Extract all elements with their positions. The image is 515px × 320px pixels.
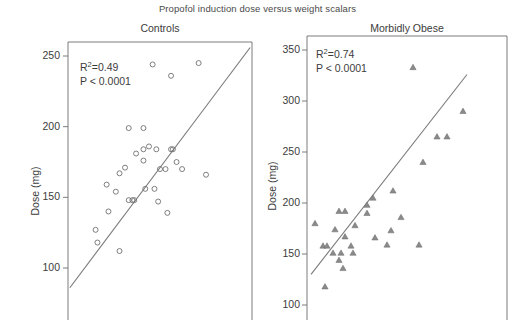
- data-point: [180, 167, 185, 172]
- data-point: [146, 144, 151, 149]
- y-tick-label-morbidly-obese-100: 100: [260, 298, 300, 310]
- r-squared-left: R2=0.49: [80, 60, 131, 74]
- annotation-left-panel: R2=0.49 P < 0.0001: [80, 60, 131, 88]
- panel-title-morbidly-obese: Morbidly Obese: [307, 22, 507, 34]
- data-point: [117, 249, 122, 254]
- y-axis-label-right: Dose (mg): [266, 146, 278, 226]
- data-point: [141, 158, 146, 163]
- data-point: [117, 171, 122, 176]
- data-point: [384, 242, 390, 247]
- regression-line-morbidly-obese: [311, 74, 467, 274]
- y-tick-label-morbidly-obese-300: 300: [260, 94, 300, 106]
- data-point: [154, 147, 159, 152]
- data-point: [420, 159, 426, 164]
- data-point: [163, 167, 168, 172]
- y-tick-label-controls-250: 250: [20, 49, 60, 61]
- data-point: [152, 186, 157, 191]
- data-point: [113, 189, 118, 194]
- panel-morbidly-obese: [302, 36, 507, 320]
- y-tick-label-controls-150: 150: [20, 190, 60, 202]
- y-tick-label-controls-200: 200: [20, 120, 60, 132]
- y-tick-label-morbidly-obese-200: 200: [260, 196, 300, 208]
- data-point: [156, 199, 161, 204]
- data-point: [338, 250, 344, 255]
- data-point: [410, 64, 416, 69]
- data-point: [352, 222, 358, 227]
- data-point: [336, 208, 342, 213]
- plot-canvas: [0, 0, 515, 320]
- data-point: [342, 208, 348, 213]
- figure-container: Propofol induction dose versus weight sc…: [0, 0, 515, 320]
- data-point: [364, 210, 370, 215]
- data-point: [330, 250, 336, 255]
- data-point: [104, 182, 109, 187]
- data-point: [123, 165, 128, 170]
- p-value-right: P < 0.0001: [316, 61, 367, 75]
- data-point: [93, 227, 98, 232]
- data-point: [204, 172, 209, 177]
- p-value-left: P < 0.0001: [80, 74, 131, 88]
- annotation-right-panel: R2=0.74 P < 0.0001: [316, 47, 367, 75]
- data-point: [372, 235, 378, 240]
- y-tick-label-morbidly-obese-350: 350: [260, 43, 300, 55]
- data-point: [165, 210, 170, 215]
- data-point: [174, 160, 179, 165]
- data-point: [350, 250, 356, 255]
- data-point: [332, 226, 338, 231]
- data-point: [134, 151, 139, 156]
- data-point: [150, 62, 155, 67]
- data-point: [95, 240, 100, 245]
- data-point: [416, 242, 422, 247]
- data-point: [434, 134, 440, 139]
- data-point: [390, 188, 396, 193]
- data-point: [322, 284, 328, 289]
- data-point: [388, 227, 394, 232]
- data-point: [460, 108, 466, 113]
- panel-title-controls: Controls: [68, 22, 252, 34]
- data-point: [141, 147, 146, 152]
- data-point: [398, 214, 404, 219]
- data-point: [196, 61, 201, 66]
- y-tick-label-morbidly-obese-150: 150: [260, 247, 300, 259]
- axis-frame-morbidly-obese: [307, 36, 507, 320]
- data-point: [312, 220, 318, 225]
- y-tick-label-morbidly-obese-250: 250: [260, 145, 300, 157]
- data-point: [348, 243, 354, 248]
- y-tick-label-controls-100: 100: [20, 261, 60, 273]
- figure-title: Propofol induction dose versus weight sc…: [0, 3, 515, 14]
- data-point: [106, 209, 111, 214]
- r-squared-right: R2=0.74: [316, 47, 367, 61]
- data-point: [340, 265, 346, 270]
- data-point: [141, 126, 146, 131]
- data-point: [169, 73, 174, 78]
- data-point: [336, 257, 342, 262]
- data-point: [126, 126, 131, 131]
- data-point: [444, 134, 450, 139]
